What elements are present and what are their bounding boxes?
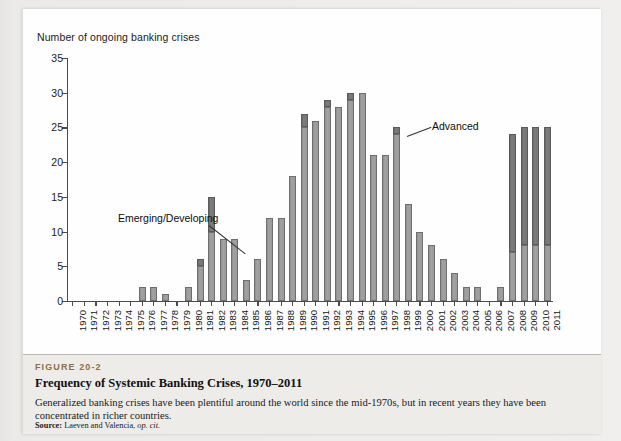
plot-area: 05101520253035 1970197119721973197419751…: [67, 58, 553, 301]
x-tick-mark: [188, 301, 189, 306]
bar-segment-advanced: [393, 127, 400, 134]
bar-segment-emerging: [359, 93, 366, 301]
bar-2007: [497, 287, 504, 301]
x-tick-label: 1978: [169, 310, 180, 331]
bar-1976: [139, 287, 146, 301]
x-tick-mark: [211, 301, 212, 306]
x-tick-mark: [165, 301, 166, 306]
x-tick-mark: [153, 301, 154, 306]
x-tick-label: 1971: [88, 310, 99, 331]
x-tick-label: 1970: [77, 310, 88, 331]
bar-1992: [324, 100, 331, 301]
bar-segment-emerging: [474, 287, 481, 301]
bar-1978: [162, 294, 169, 301]
x-tick-label: 2011: [551, 310, 562, 330]
bar-segment-emerging: [463, 287, 470, 301]
source-citation: op. cit.: [137, 421, 160, 430]
y-axis-line: [67, 58, 68, 301]
annotation-emerging-developing: Emerging/Developing: [118, 212, 218, 224]
x-tick-label: 1975: [135, 310, 146, 331]
x-axis-line: [67, 301, 553, 302]
x-tick-label: 1998: [401, 310, 412, 331]
bar-1985: [243, 280, 250, 301]
x-tick-label: 1989: [297, 310, 308, 331]
figure-card: Number of ongoing banking crises 0510152…: [22, 8, 600, 433]
x-tick-mark: [84, 301, 85, 306]
bar-1989: [289, 176, 296, 301]
bar-1999: [405, 204, 412, 301]
bar-1991: [312, 121, 319, 302]
x-tick-mark: [95, 301, 96, 306]
x-tick-label: 1976: [146, 310, 157, 331]
chart-panel: Number of ongoing banking crises 0510152…: [23, 9, 601, 354]
bar-1987: [266, 218, 273, 301]
x-tick-mark: [315, 301, 316, 306]
x-tick-label: 1977: [158, 310, 169, 331]
x-tick-mark: [500, 301, 501, 306]
y-tick-label: 30: [51, 87, 63, 99]
x-tick-mark: [200, 301, 201, 306]
x-tick-label: 1995: [366, 310, 377, 331]
bar-2008: [509, 134, 516, 301]
bar-segment-emerging: [335, 107, 342, 301]
bar-segment-emerging: [428, 245, 435, 301]
page-root: Number of ongoing banking crises 0510152…: [0, 0, 621, 441]
y-tick-label: 15: [51, 191, 63, 203]
bar-segment-advanced: [509, 134, 516, 252]
x-tick-mark: [443, 301, 444, 306]
bar-segment-emerging: [544, 245, 551, 301]
x-tick-label: 1990: [308, 310, 319, 331]
bar-1983: [220, 239, 227, 301]
bar-segment-advanced: [544, 127, 551, 245]
bar-2009: [521, 127, 528, 301]
x-tick-mark: [512, 301, 513, 306]
x-tick-label: 2008: [517, 310, 528, 331]
bar-segment-emerging: [139, 287, 146, 301]
x-tick-mark: [362, 301, 363, 306]
annotation-advanced: Advanced: [432, 120, 479, 132]
bar-segment-emerging: [301, 127, 308, 301]
figure-description: Generalized banking crises have been ple…: [35, 396, 589, 423]
bar-segment-emerging: [185, 287, 192, 301]
x-tick-mark: [454, 301, 455, 306]
bar-1994: [347, 93, 354, 301]
bar-segment-advanced: [301, 114, 308, 128]
x-tick-mark: [281, 301, 282, 306]
x-tick-label: 1979: [181, 310, 192, 331]
bar-1986: [254, 259, 261, 301]
bar-2004: [463, 287, 470, 301]
x-tick-mark: [130, 301, 131, 306]
figure-source: Source: Laeven and Valencia, op. cit.: [35, 421, 160, 430]
bar-segment-emerging: [289, 176, 296, 301]
x-tick-label: 1996: [378, 310, 389, 331]
bar-segment-advanced: [521, 127, 528, 245]
figure-caption-block: FIGURE 20-2 Frequency of Systemic Bankin…: [23, 354, 601, 434]
x-tick-mark: [269, 301, 270, 306]
bar-segment-advanced: [532, 127, 539, 245]
x-tick-label: 1985: [250, 310, 261, 331]
x-tick-mark: [223, 301, 224, 306]
bar-segment-emerging: [278, 218, 285, 301]
x-tick-mark: [304, 301, 305, 306]
x-tick-mark: [373, 301, 374, 306]
x-tick-mark: [524, 301, 525, 306]
y-tick-label: 5: [57, 260, 63, 272]
x-tick-label: 1991: [320, 310, 331, 331]
x-tick-mark: [234, 301, 235, 306]
x-tick-label: 2004: [470, 310, 481, 331]
x-tick-mark: [107, 301, 108, 306]
x-tick-mark: [408, 301, 409, 306]
x-tick-label: 2005: [482, 310, 493, 331]
bar-segment-emerging: [532, 245, 539, 301]
x-tick-label: 2009: [528, 310, 539, 331]
bar-segment-emerging: [393, 134, 400, 301]
x-tick-mark: [477, 301, 478, 306]
bar-segment-emerging: [208, 232, 215, 301]
x-tick-label: 2006: [493, 310, 504, 331]
x-tick-label: 1986: [262, 310, 273, 331]
bar-segment-emerging: [150, 287, 157, 301]
bar-2002: [440, 259, 447, 301]
y-tick-label: 10: [51, 226, 63, 238]
bar-1981: [197, 259, 204, 301]
x-tick-mark: [292, 301, 293, 306]
